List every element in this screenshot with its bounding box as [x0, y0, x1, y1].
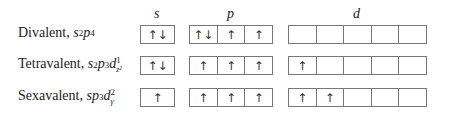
- orbital-cell: ↑: [289, 89, 317, 106]
- header-s: s: [154, 6, 159, 22]
- orbital-cell: [317, 57, 345, 74]
- orbital-cell: [289, 26, 317, 43]
- orbital-cell: ↑: [141, 89, 174, 106]
- orbital-cell: [399, 89, 426, 106]
- row-label: Tetravalent, s2p3d1z²: [18, 56, 122, 74]
- orbital-cell: [399, 57, 426, 74]
- p-orbital-box: ↑↑↑: [189, 56, 273, 75]
- orbital-cell: ↑: [190, 57, 218, 74]
- row-label: Divalent, s2p4: [18, 25, 95, 41]
- orbital-cell: ↑: [190, 89, 218, 106]
- orbital-cell: ↑↓: [190, 26, 218, 43]
- orbital-cell: ↑: [218, 89, 246, 106]
- configuration-name: Tetravalent,: [18, 56, 88, 71]
- orbital-cell: [372, 26, 400, 43]
- s-orbital-box: ↑: [140, 88, 175, 107]
- orbital-cell: [344, 89, 372, 106]
- row-label: Sexavalent, sp3d2γ: [18, 88, 115, 106]
- d-orbital-box: ↑: [288, 56, 427, 75]
- configuration-name: Sexavalent,: [18, 88, 86, 103]
- orbital-cell: [372, 57, 400, 74]
- orbital-cell: ↑: [218, 57, 246, 74]
- orbital-cell: ↑: [289, 57, 317, 74]
- orbital-cell: [317, 26, 345, 43]
- orbital-cell: [344, 57, 372, 74]
- orbital-cell: [399, 26, 426, 43]
- orbital-cell: ↑: [245, 57, 272, 74]
- d-orbital-box: ↑↑: [288, 88, 427, 107]
- p-orbital-box: ↑↑↑: [189, 88, 273, 107]
- d-orbital-box: [288, 25, 427, 44]
- orbital-cell: ↑↓: [141, 57, 174, 74]
- orbital-cell: [372, 89, 400, 106]
- header-d: d: [353, 6, 360, 22]
- s-orbital-box: ↑↓: [140, 25, 175, 44]
- configuration-name: Divalent,: [18, 25, 73, 40]
- orbital-cell: [344, 26, 372, 43]
- orbital-cell: ↑: [245, 89, 272, 106]
- orbital-cell: ↑↓: [141, 26, 174, 43]
- orbital-cell: ↑: [245, 26, 272, 43]
- orbital-cell: ↑: [317, 89, 345, 106]
- orbital-cell: ↑: [218, 26, 246, 43]
- s-orbital-box: ↑↓: [140, 56, 175, 75]
- p-orbital-box: ↑↓↑↑: [189, 25, 273, 44]
- header-p: p: [227, 6, 234, 22]
